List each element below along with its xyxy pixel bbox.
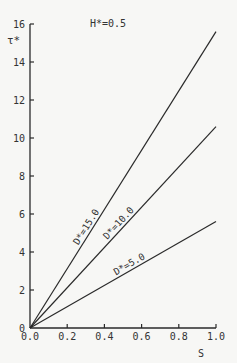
series-line [30,32,216,328]
y-tick-label: 6 [19,209,25,220]
x-tick-label: 0.4 [95,331,113,342]
series-label: D*=15.0 [71,207,102,247]
y-tick-label: 2 [19,285,25,296]
x-tick-label: 0.6 [133,331,151,342]
y-tick-label: 12 [13,95,25,106]
series-line [30,127,216,328]
x-tick-label: 1.0 [207,331,225,342]
series-line [30,222,216,328]
series-lines: D*=15.0D*=10.0D*=5.0 [30,32,216,328]
y-tick-label: 4 [19,247,25,258]
annotation-h: H*=0.5 [90,18,126,29]
series-label: D*=10.0 [101,204,136,241]
x-tick-label: 0.8 [170,331,188,342]
y-axis-label: τ* [7,34,20,47]
y-tick-label: 10 [13,133,25,144]
labels: τ* H*=0.5 S [7,18,204,359]
x-axis-label: S [198,348,204,359]
x-tick-label: 0.2 [58,331,76,342]
x-tick-label: 0.0 [21,331,39,342]
y-tick-label: 16 [13,19,25,30]
y-tick-label: 8 [19,171,25,182]
chart: 02468101214160.00.20.40.60.81.0 D*=15.0D… [0,0,237,363]
y-tick-label: 14 [13,57,25,68]
